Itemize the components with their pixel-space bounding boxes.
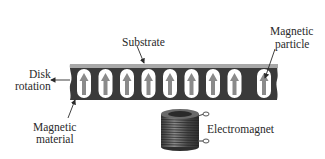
particle [206,69,220,98]
label-disk-rotation-line1: Disk [29,68,51,80]
label-magnetic-particle-line2: particle [275,38,309,50]
label-substrate: Substrate [122,36,165,48]
substrate-layer [70,64,278,68]
particle [142,69,156,98]
substrate-arrow [137,46,144,63]
particle [228,69,242,98]
particle [120,69,134,98]
particle [77,69,91,98]
label-magnetic-material-line1: Magnetic [33,121,76,133]
particle [257,69,271,98]
label-disk-rotation-line2: rotation [15,80,51,92]
magnetic-material-arrow [68,100,75,118]
particle [163,69,177,98]
particle [185,69,199,98]
label-magnetic-material-line2: material [36,133,74,145]
label-magnetic-particle-line1: Magnetic [270,25,313,37]
particle [99,69,113,98]
label-electromagnet: Electromagnet [207,123,274,135]
electromagnet-coil [161,109,209,151]
